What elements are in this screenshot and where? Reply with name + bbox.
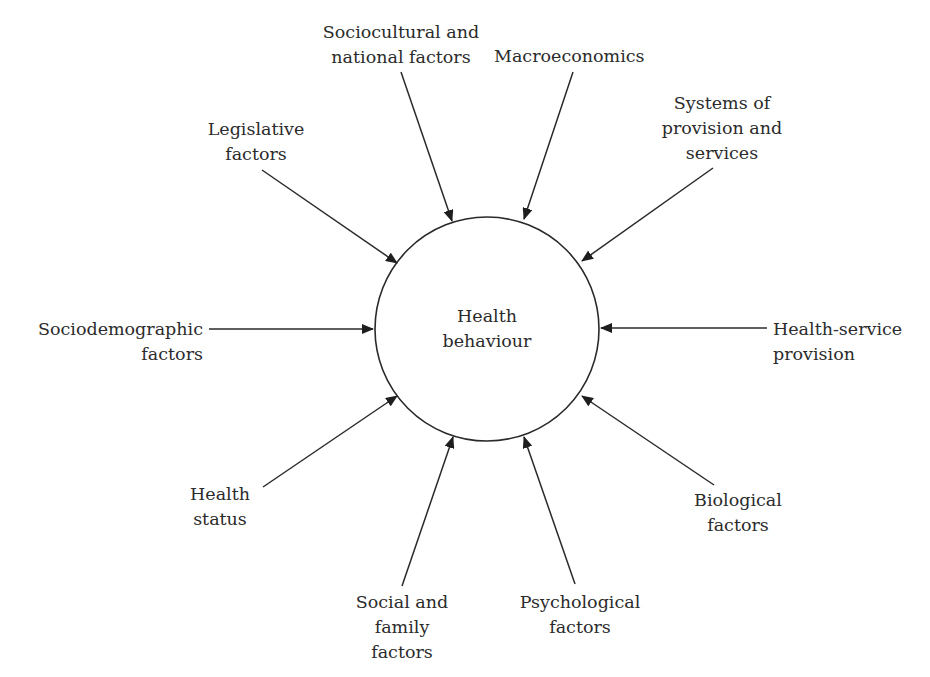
arrow-health-status: [263, 396, 397, 487]
label-line: status: [180, 507, 260, 532]
label-line: Macroeconomics: [494, 44, 645, 69]
label-line: Health-service: [773, 317, 902, 342]
center-label: Health behaviour: [427, 304, 547, 354]
label-line: factors: [668, 513, 808, 538]
label-line: provision and: [652, 116, 792, 141]
center-label-line: Health: [427, 304, 547, 329]
label-line: factors: [0, 342, 203, 367]
label-line: Psychological: [510, 590, 650, 615]
label-line: provision: [773, 342, 902, 367]
label-health-status: Health status: [180, 482, 260, 532]
label-line: family: [342, 615, 462, 640]
label-social-family: Social and family factors: [342, 590, 462, 665]
label-line: Sociocultural and: [311, 20, 491, 45]
label-line: Systems of: [652, 91, 792, 116]
arrow-macroeconomics: [524, 72, 573, 219]
label-line: national factors: [311, 45, 491, 70]
label-systems: Systems of provision and services: [652, 91, 792, 166]
label-line: Social and: [342, 590, 462, 615]
label-sociodemographic: Sociodemographic factors: [0, 317, 203, 367]
label-line: factors: [196, 142, 316, 167]
label-sociocultural: Sociocultural and national factors: [311, 20, 491, 70]
label-line: services: [652, 141, 792, 166]
label-legislative: Legislative factors: [196, 117, 316, 167]
label-psychological: Psychological factors: [510, 590, 650, 640]
label-line: Health: [180, 482, 260, 507]
label-macroeconomics: Macroeconomics: [494, 44, 645, 69]
arrow-systems: [582, 168, 713, 261]
arrow-social-family: [402, 437, 453, 586]
label-line: factors: [510, 615, 650, 640]
center-label-line: behaviour: [427, 329, 547, 354]
arrow-legislative: [262, 170, 397, 263]
label-line: Legislative: [196, 117, 316, 142]
arrow-biological: [582, 396, 714, 485]
arrow-sociocultural: [401, 72, 452, 221]
arrow-psychological: [524, 437, 575, 584]
label-biological: Biological factors: [668, 488, 808, 538]
label-health-service: Health-service provision: [773, 317, 902, 367]
label-line: factors: [342, 640, 462, 665]
label-line: Sociodemographic: [0, 317, 203, 342]
label-line: Biological: [668, 488, 808, 513]
